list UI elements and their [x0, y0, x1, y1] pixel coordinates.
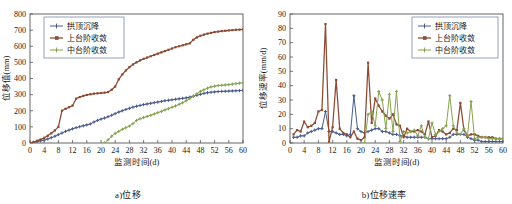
- series-marker-1: [128, 66, 130, 68]
- y-tick-label: 300: [14, 90, 26, 99]
- x-tick-label: 20: [97, 146, 105, 155]
- series-marker-1: [381, 110, 383, 112]
- series-marker-1: [139, 59, 141, 61]
- y-tick-label: 100: [14, 123, 26, 132]
- series-marker-1: [79, 96, 81, 98]
- series-marker-1: [29, 142, 31, 144]
- y-tick-label: 90: [278, 10, 286, 19]
- series-marker-1: [196, 36, 198, 38]
- displacement-rate-chart-svg: 0102030405060708090048121620242832364044…: [256, 0, 512, 204]
- series-marker-1: [40, 138, 42, 140]
- x-tick-label: 4: [302, 146, 306, 155]
- legend-label-2: 中台阶收敛: [67, 45, 107, 55]
- series-marker-1: [57, 126, 59, 128]
- x-tick-label: 60: [499, 146, 507, 155]
- x-tick-label: 16: [83, 146, 91, 155]
- x-tick-label: 48: [456, 146, 464, 155]
- series-marker-1: [217, 30, 219, 32]
- legend-marker-1: [55, 36, 59, 40]
- x-tick-label: 8: [56, 146, 60, 155]
- series-marker-1: [224, 30, 226, 32]
- x-tick-label: 44: [442, 146, 450, 155]
- series-marker-1: [235, 29, 237, 31]
- series-marker-1: [36, 140, 38, 142]
- series-marker-1: [395, 123, 397, 125]
- series-marker-1: [153, 54, 155, 56]
- series-marker-1: [160, 51, 162, 53]
- x-tick-label: 52: [211, 146, 219, 155]
- panel-caption-b: b)位移速率: [256, 188, 512, 201]
- series-marker-1: [420, 130, 422, 132]
- series-marker-1: [111, 89, 113, 91]
- displacement-chart-svg: 0100200300400500600700800048121620242832…: [0, 0, 256, 204]
- y-tick-label: 800: [14, 10, 26, 19]
- series-marker-1: [171, 47, 173, 49]
- series-marker-1: [388, 118, 390, 120]
- series-marker-1: [174, 46, 176, 48]
- series-marker-1: [32, 141, 34, 143]
- series-marker-1: [242, 28, 244, 30]
- series-marker-1: [89, 93, 91, 95]
- series-marker-1: [96, 92, 98, 94]
- series-marker-1: [210, 32, 212, 34]
- series-marker-1: [303, 120, 305, 122]
- series-marker-1: [182, 44, 184, 46]
- series-marker-1: [300, 130, 302, 132]
- x-tick-label: 0: [288, 146, 292, 155]
- x-tick-label: 28: [125, 146, 133, 155]
- series-marker-1: [189, 42, 191, 44]
- series-marker-1: [427, 120, 429, 122]
- series-marker-1: [135, 61, 137, 63]
- series-marker-1: [360, 139, 362, 141]
- panel-caption-a: a)位移: [0, 188, 256, 201]
- series-marker-1: [164, 50, 166, 52]
- x-tick-label: 12: [329, 146, 337, 155]
- series-marker-1: [238, 29, 240, 31]
- series-marker-1: [371, 122, 373, 124]
- series-marker-1: [403, 136, 405, 138]
- chart-panel-displacement-rate: 0102030405060708090048121620242832364044…: [256, 0, 512, 204]
- x-tick-label: 52: [471, 146, 479, 155]
- series-marker-1: [54, 129, 56, 131]
- y-tick-label: 70: [278, 38, 286, 47]
- x-tick-label: 56: [485, 146, 493, 155]
- y-tick-label: 200: [14, 107, 26, 116]
- x-tick-label: 36: [154, 146, 162, 155]
- x-tick-label: 28: [385, 146, 393, 155]
- series-marker-1: [346, 133, 348, 135]
- series-marker-1: [64, 108, 66, 110]
- series-marker-1: [321, 109, 323, 111]
- x-axis-title: 监测时间(d): [114, 157, 160, 167]
- x-tick-label: 16: [343, 146, 351, 155]
- series-marker-1: [378, 105, 380, 107]
- x-tick-label: 32: [400, 146, 408, 155]
- series-marker-1: [228, 29, 230, 31]
- figure-container: 0100200300400500600700800048121620242832…: [0, 0, 512, 204]
- x-tick-label: 44: [182, 146, 190, 155]
- series-marker-1: [310, 125, 312, 127]
- series-marker-1: [317, 110, 319, 112]
- legend-label-2: 中台阶收敛: [435, 45, 475, 55]
- series-marker-1: [221, 30, 223, 32]
- series-marker-1: [143, 58, 145, 60]
- series-marker-1: [374, 97, 376, 99]
- series-marker-1: [296, 129, 298, 131]
- x-tick-label: 56: [225, 146, 233, 155]
- x-tick-label: 40: [168, 146, 176, 155]
- series-marker-1: [72, 104, 74, 106]
- series-marker-1: [47, 135, 49, 137]
- y-tick-label: 500: [14, 58, 26, 67]
- series-marker-1: [349, 136, 351, 138]
- y-tick-label: 40: [278, 81, 286, 90]
- y-tick-label: 80: [278, 24, 286, 33]
- y-tick-label: 400: [14, 74, 26, 83]
- y-tick-label: 0: [22, 139, 26, 148]
- series-marker-1: [86, 94, 88, 96]
- series-marker-1: [121, 73, 123, 75]
- series-marker-1: [150, 55, 152, 57]
- series-marker-1: [406, 128, 408, 130]
- chart-panel-displacement: 0100200300400500600700800048121620242832…: [0, 0, 256, 204]
- y-axis-title: 位移值(mm): [1, 55, 11, 101]
- x-axis-title: 监测时间(d): [374, 157, 420, 167]
- y-tick-label: 60: [278, 53, 286, 62]
